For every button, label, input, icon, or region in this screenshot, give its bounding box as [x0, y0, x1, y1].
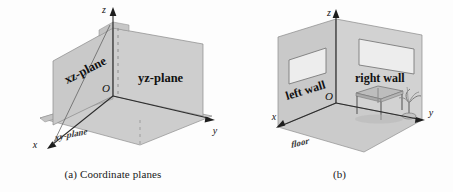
y-axis-label-b: y [428, 107, 434, 118]
figure-coordinate-planes-and-room: z y x O xz-plane yz-plane xy-plane (a) C… [0, 0, 453, 192]
x-axis-label: x [32, 139, 38, 150]
floor-label: floor [291, 135, 310, 150]
panel-a-caption: (a) Coordinate planes [0, 168, 226, 180]
x-axis-label-b: x [271, 111, 277, 122]
yz-plane-label: yz-plane [138, 71, 184, 85]
panel-b-caption: (b) [226, 168, 453, 180]
y-axis-arrowhead [205, 117, 215, 123]
y-axis-label: y [212, 125, 218, 136]
table-shadow [355, 115, 403, 124]
origin-label-b: O [325, 90, 333, 102]
z-axis-arrowhead [110, 7, 117, 16]
panel-b-room: z y x O left wall right wall floor (b) [226, 0, 453, 192]
z-axis-label-b: z [326, 7, 331, 18]
panel-b-diagram: z y x O left wall right wall floor [226, 0, 453, 168]
panel-a-coordinate-planes: z y x O xz-plane yz-plane xy-plane (a) C… [0, 0, 226, 192]
xy-plane-label: xy-plane [54, 126, 88, 143]
origin-label-a: O [102, 82, 110, 94]
panel-a-diagram: z y x O xz-plane yz-plane xy-plane [0, 0, 226, 168]
z-axis-label: z [101, 4, 106, 15]
right-wall-label: right wall [355, 71, 405, 85]
z-axis-arrowhead-b [333, 9, 340, 18]
